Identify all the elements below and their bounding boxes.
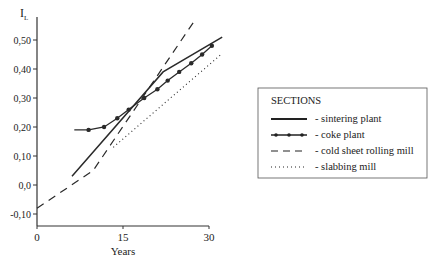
data-marker [177,70,181,74]
legend-label-slabbing: - slabbing mill [315,161,376,172]
y-tick-label: 0,50 [14,35,32,46]
y-tick-label: 0,0 [19,180,32,191]
x-axis-label: Years [111,245,136,257]
x-tick-label: 15 [118,231,130,243]
y-tick-label: 0,20 [14,122,32,133]
data-marker [127,107,131,111]
legend-title: SECTIONS [271,95,321,106]
series-cold-sheet-rolling-mill [37,20,195,209]
legend-marker [274,133,278,137]
series [37,20,222,209]
series-coke-plant [74,46,212,130]
series-slabbing-mill [113,55,221,148]
legend-label-sintering: - sintering plant [315,113,382,124]
legend-label-coke: - coke plant [315,129,365,140]
x-tick-label: 0 [34,231,40,243]
legend-marker [300,133,304,137]
data-marker [155,87,159,91]
legend: SECTIONS - sintering plant - coke plant … [258,88,427,178]
series-sintering-plant [72,37,222,176]
chart: 0,500,400,300,200,100,0-0,10 01530 IL Ye… [0,0,443,266]
y-tick-label: 0,40 [14,64,32,75]
y-axis-label: IL [20,6,28,22]
legend-label-cold-sheet: - cold sheet rolling mill [315,145,414,156]
data-marker [166,78,170,82]
data-marker [210,44,214,48]
data-marker [200,52,204,56]
data-marker [189,61,193,65]
data-marker [115,116,119,120]
data-marker [102,125,106,129]
x-tick-label: 30 [204,231,216,243]
y-tick-label: 0,10 [14,151,32,162]
y-tick-label: 0,30 [14,93,32,104]
legend-marker [287,133,291,137]
y-tick-label: -0,10 [10,209,31,220]
data-marker [86,128,90,132]
axes: 0,500,400,300,200,100,0-0,10 01530 IL Ye… [10,6,215,257]
